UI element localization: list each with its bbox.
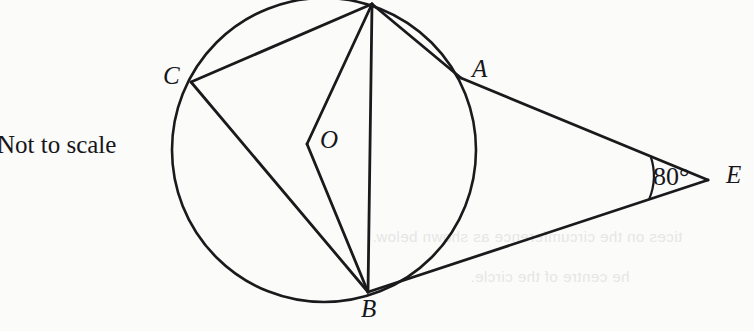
segment-DO [307, 4, 372, 144]
point-label-B: B [361, 295, 376, 323]
segment-group [191, 4, 708, 292]
angle-value-label: 80° [653, 162, 689, 192]
segment-CB [191, 82, 368, 292]
segment-DB [368, 4, 372, 292]
point-label-O: O [320, 126, 338, 154]
point-label-E: E [726, 161, 741, 189]
segment-DA [372, 4, 461, 78]
point-label-A: A [472, 55, 487, 83]
not-to-scale-note: Not to scale [0, 131, 116, 159]
geometry-figure [0, 0, 754, 331]
segment-BE [368, 180, 708, 292]
segment-DC [191, 4, 372, 82]
diagram-page: tices on the circumference as shown belo… [0, 0, 754, 331]
segment-OB [307, 144, 368, 292]
point-label-C: C [163, 62, 180, 90]
